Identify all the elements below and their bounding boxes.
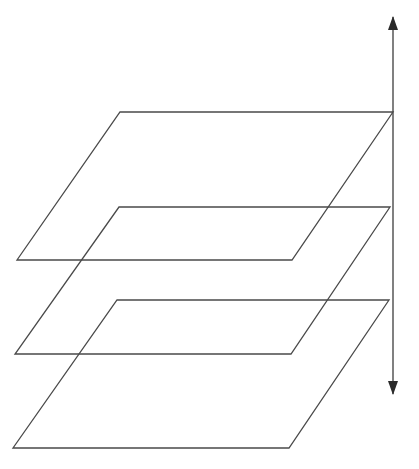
middle-plane <box>15 207 390 354</box>
layered-planes-diagram <box>0 0 419 469</box>
planes-group <box>13 112 393 448</box>
top-plane <box>17 112 393 260</box>
bottom-plane <box>13 300 389 448</box>
